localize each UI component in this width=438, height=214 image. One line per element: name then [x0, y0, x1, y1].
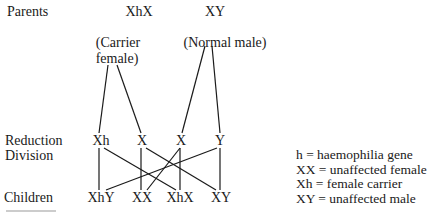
line-mother-to-xh [99, 65, 108, 133]
line-x-to-xy [146, 148, 216, 190]
gamete-x-father: X [176, 133, 186, 148]
mother-label-line2: female) [96, 51, 139, 66]
row-label-children: Children [4, 190, 53, 205]
child-xhy: XhY [87, 190, 114, 205]
line-xh-to-xhx [104, 148, 176, 190]
child-xx: XX [132, 190, 152, 205]
gamete-x-mother: X [137, 133, 147, 148]
gamete-y: Y [215, 133, 225, 148]
row-label-reduction: Reduction [5, 133, 63, 148]
row-label-parents: Parents [7, 4, 48, 19]
legend-item-xh: Xh = female carrier [296, 177, 427, 192]
row-label-division: Division [5, 148, 53, 163]
legend-item-xy: XY = unaffected male [296, 192, 427, 207]
father-label: (Normal male) [184, 35, 267, 50]
legend-item-xx: XX = unaffected female [296, 163, 427, 178]
legend: h = haemophilia gene XX = unaffected fem… [296, 148, 427, 206]
legend-item-h: h = haemophilia gene [296, 148, 427, 163]
line-father-to-y [212, 46, 220, 133]
child-xhx: XhX [166, 190, 193, 205]
line-y-to-xhy [106, 148, 217, 190]
father-genotype: XY [205, 4, 225, 19]
gamete-xh: Xh [92, 133, 109, 148]
child-xy: XY [211, 190, 231, 205]
line-father-to-x [182, 46, 205, 133]
mother-label-line1: (Carrier [96, 35, 140, 50]
line-mother-to-x [117, 65, 141, 133]
cropped-caption [6, 210, 56, 214]
line-xf-to-xx [147, 148, 180, 190]
mother-genotype: XhX [125, 4, 152, 19]
